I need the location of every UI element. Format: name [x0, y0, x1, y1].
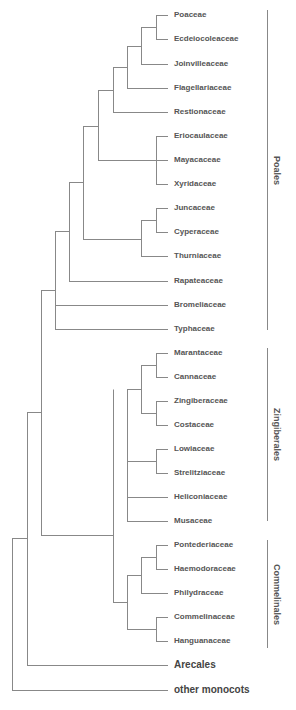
taxon-label: Costaceae: [174, 420, 214, 430]
taxon-label: Cyperaceae: [174, 227, 219, 237]
taxon-label: Xyridaceae: [174, 179, 216, 189]
taxon-label: other monocots: [174, 684, 250, 696]
taxon-label: Rapateaceae: [174, 276, 223, 286]
taxon-label: Poaceae: [174, 10, 206, 20]
clade-label: Commelinales: [272, 564, 282, 625]
taxon-label: Bromeliaceae: [174, 300, 226, 310]
clade-label: Poales: [272, 156, 282, 185]
clade-label: Zingiberales: [272, 408, 282, 461]
taxon-label: Cannaceae: [174, 372, 216, 382]
taxon-label: Haemodoraceae: [174, 564, 236, 574]
taxon-label: Juncaceae: [174, 203, 215, 213]
clade-bracket-line: [267, 540, 268, 648]
taxon-label: Commelinaceae: [174, 612, 235, 622]
taxon-label: Heliconiaceae: [174, 492, 227, 502]
taxon-label: Thurniaceae: [174, 251, 221, 261]
taxon-label: Lowiaceae: [174, 444, 214, 454]
taxon-label: Flagellariaceae: [174, 83, 231, 93]
taxon-label: Marantaceae: [174, 348, 222, 358]
clade-bracket-line: [267, 348, 268, 521]
taxon-label: Zingiberaceae: [174, 396, 228, 406]
clade-bracket-line: [267, 10, 268, 330]
taxon-label: Musaceae: [174, 516, 212, 526]
cladogram-branches: [0, 0, 296, 710]
taxon-label: Philydraceae: [174, 588, 223, 598]
taxon-label: Pontederiaceae: [174, 540, 233, 550]
taxon-label: Strelitziaceae: [174, 468, 225, 478]
taxon-label: Typhaceae: [174, 324, 215, 334]
taxon-label: Hanguanaceae: [174, 636, 230, 646]
taxon-label: Ecdeiocoleaceae: [174, 34, 238, 44]
taxon-label: Eriocaulaceae: [174, 131, 228, 141]
taxon-label: Restionaceae: [174, 107, 226, 117]
taxon-label: Arecales: [174, 659, 216, 671]
taxon-label: Joinvilleaceae: [174, 59, 228, 69]
taxon-label: Mayacaceae: [174, 155, 221, 165]
